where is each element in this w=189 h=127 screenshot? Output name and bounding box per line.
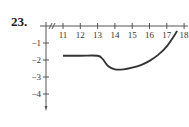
chart: 1112131415161718 −1−2−3−4: [0, 0, 189, 127]
y-axis: [45, 22, 48, 111]
x-tick-label: 13: [93, 30, 103, 40]
y-tick-label: −3: [31, 72, 41, 82]
y-tick-label: −2: [31, 55, 41, 65]
x-tick-label: 11: [59, 30, 68, 40]
y-tick-label: −1: [31, 38, 41, 48]
x-axis: [40, 23, 188, 29]
x-tick-label: 15: [128, 30, 138, 40]
x-tick-label: 18: [180, 30, 189, 40]
y-tick-label: −4: [31, 89, 41, 99]
x-tick-label: 17: [162, 30, 172, 40]
x-tick-label: 12: [76, 30, 85, 40]
y-axis-arrow-icon: [45, 106, 48, 111]
x-tick-label: 16: [145, 30, 155, 40]
x-tick-label: 14: [110, 30, 120, 40]
